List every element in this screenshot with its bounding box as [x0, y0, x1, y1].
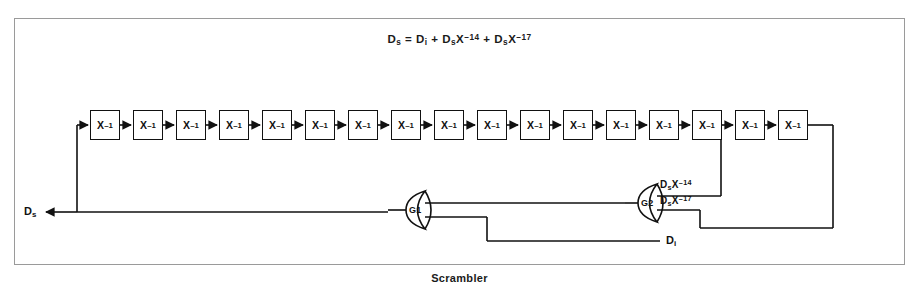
- output-label-ds: Ds: [24, 205, 36, 219]
- delay-stage-1: X–1: [90, 110, 120, 140]
- delay-stage-13: X–1: [606, 110, 636, 140]
- delay-stage-14: X–1: [649, 110, 679, 140]
- delay-stage-17: X–1: [778, 110, 808, 140]
- scrambler-figure: Ds = Di + DsX–14 + DsX–17: [0, 0, 919, 297]
- delay-stage-12: X–1: [563, 110, 593, 140]
- delay-stage-4: X–1: [219, 110, 249, 140]
- delay-stage-9: X–1: [434, 110, 464, 140]
- delay-stage-11: X–1: [520, 110, 550, 140]
- delay-stage-16: X–1: [735, 110, 765, 140]
- g1-gate-label: G1: [409, 205, 421, 215]
- g1-or-gate-back: [425, 191, 431, 229]
- delay-stage-15: X–1: [692, 110, 722, 140]
- delay-stage-8: X–1: [391, 110, 421, 140]
- g2-gate-label: G2: [641, 198, 653, 208]
- tap-label-minus-14: DsX–14: [660, 178, 692, 192]
- delay-stage-10: X–1: [477, 110, 507, 140]
- delay-stage-6: X–1: [305, 110, 335, 140]
- figure-caption: Scrambler: [0, 272, 919, 284]
- delay-stage-3: X–1: [176, 110, 206, 140]
- delay-stage-7: X–1: [348, 110, 378, 140]
- input-label-di: Di: [666, 234, 676, 248]
- delay-stage-5: X–1: [262, 110, 292, 140]
- delay-stage-2: X–1: [133, 110, 163, 140]
- wiring-layer: [0, 0, 919, 297]
- tap-label-minus-17: DsX–17: [660, 194, 692, 208]
